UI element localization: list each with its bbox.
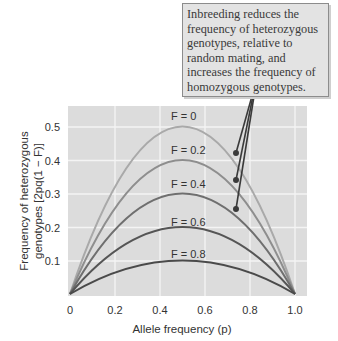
y-tick: 0.5	[45, 121, 60, 133]
y-tick: 0.3	[45, 188, 60, 200]
x-tick: 1.0	[287, 304, 302, 316]
x-tick: 0.6	[197, 304, 212, 316]
curve-label-f-0.8: F = 0.8	[171, 248, 206, 260]
x-tick: 0.8	[242, 304, 257, 316]
y-axis-label-line2: genotypes [2pq(1 − F)]	[32, 143, 44, 259]
annotation-callout: Inbreeding reduces the frequency of hete…	[182, 3, 329, 97]
y-tick: 0.2	[45, 222, 60, 234]
x-axis-label: Allele frequency (p)	[132, 323, 231, 335]
y-axis-label-line1: Frequency of heterozygous	[18, 131, 30, 271]
callout-line: increases the frequency of	[187, 65, 324, 80]
callout-line: genotypes, relative to	[187, 36, 324, 51]
curve-label-f-0: F = 0	[171, 110, 196, 122]
x-tick: 0.4	[152, 304, 167, 316]
curve-label-f-0.4: F = 0.4	[171, 178, 206, 190]
callout-line: Inbreeding reduces the	[187, 7, 324, 22]
x-tick: 0	[67, 304, 73, 316]
y-tick: 0.1	[45, 255, 60, 267]
callout-line: frequency of heterozygous	[187, 22, 324, 37]
curve-label-f-0.2: F = 0.2	[171, 144, 206, 156]
curve-label-f-0.6: F = 0.6	[171, 216, 206, 228]
y-tick: 0.4	[45, 155, 60, 167]
x-tick: 0.2	[107, 304, 122, 316]
callout-line: homozygous genotypes.	[187, 80, 324, 95]
callout-line: random mating, and	[187, 51, 324, 66]
